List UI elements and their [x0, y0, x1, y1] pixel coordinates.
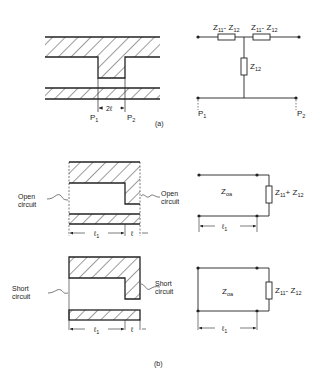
- caption-b: (b): [154, 360, 163, 368]
- series-impedance-right-icon: [253, 34, 270, 40]
- open-load-label: Z11+ Z12: [275, 188, 304, 198]
- short-len2-label: ℓ: [130, 326, 134, 333]
- open-line-impedance-label: Zoa: [221, 187, 233, 197]
- terminal-dot-icon: [196, 35, 199, 38]
- open-left-label-line1: Open: [18, 193, 35, 201]
- open-circuit-equivalent: [197, 173, 272, 232]
- load-impedance-icon: [266, 186, 272, 203]
- short-load-label: Z11- Z12: [275, 286, 302, 296]
- waveguide-short: [48, 257, 160, 330]
- terminal-dot-icon: [297, 35, 300, 38]
- short-right-label-line2: circuit: [155, 288, 173, 295]
- open-right-label-line1: Open: [161, 190, 178, 198]
- port1-label-circuit: P1: [198, 109, 206, 119]
- short-circuit-equivalent: [196, 266, 272, 330]
- waveguide-a: [45, 37, 160, 112]
- short-right-label-line1: Short: [155, 280, 172, 287]
- t-network: [196, 34, 300, 110]
- port2-label-a: P2: [127, 113, 135, 123]
- load-impedance-icon: [266, 282, 272, 299]
- short-left-label-line2: circuit: [12, 293, 30, 300]
- waveguide-open: [47, 162, 160, 236]
- open-right-label-line2: circuit: [161, 198, 179, 205]
- open-len2-label: ℓ: [130, 230, 134, 237]
- series-left-label: Z11- Z12: [213, 23, 240, 33]
- shunt-impedance-icon: [241, 58, 247, 75]
- short-len1-label: ℓ1: [93, 326, 99, 335]
- port2-label-circuit: P2: [297, 109, 305, 119]
- short-circuit-len-label: ℓ1: [221, 325, 227, 334]
- shunt-label: Z12: [250, 62, 261, 72]
- open-left-label-line2: circuit: [18, 201, 36, 208]
- caption-a: (a): [155, 120, 164, 128]
- gap-label: 2ℓ: [106, 105, 113, 112]
- open-len1-label: ℓ1: [93, 230, 99, 239]
- diagram-canvas: 2ℓ P1 P2 Z11- Z12 Z11- Z12 Z12 P1 P2 (a): [0, 0, 320, 384]
- port1-label-a: P1: [90, 113, 98, 123]
- short-left-label-line1: Short: [12, 285, 29, 292]
- open-circuit-len-label: ℓ1: [221, 223, 227, 232]
- series-right-label: Z11- Z12: [251, 23, 278, 33]
- short-line-impedance-label: Zoa: [222, 287, 234, 297]
- series-impedance-left-icon: [218, 34, 235, 40]
